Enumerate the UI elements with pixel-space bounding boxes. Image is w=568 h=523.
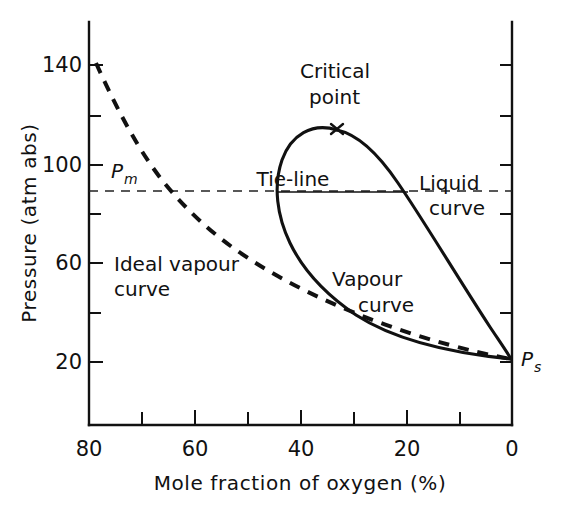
liquid-curve [337,130,511,359]
tie-line-label: Tie-line [256,167,330,191]
x-tick-label-40: 40 [288,437,315,461]
ideal-vapour-line2: curve [114,277,170,301]
ps-symbol: P [521,347,534,371]
y-tick-label-100: 100 [42,153,82,177]
x-tick-label-20: 20 [394,437,421,461]
y-tick-label-140: 140 [42,53,82,77]
pm-symbol: P [111,159,124,183]
ideal-vapour-line1: Ideal vapour [114,252,240,276]
pressure-composition-diagram: 140 100 60 20 80 60 40 20 0 Mole fractio… [0,0,568,523]
critical-point-label: Critical point [300,59,370,109]
vapour-curve [277,128,511,359]
liquid-curve-label: Liquid curve [419,171,485,220]
x-tick-label-80: 80 [76,437,103,461]
y-tick-label-20: 20 [55,350,82,374]
ideal-vapour-curve-label: Ideal vapour curve [114,252,240,301]
x-tick-label-60: 60 [182,437,209,461]
ps-subscript: s [534,359,541,375]
critical-point-line2: point [309,85,360,109]
y-axis-title: Pressure (atm abs) [17,123,41,322]
chart-svg: 140 100 60 20 80 60 40 20 0 Mole fractio… [0,0,568,523]
y-tick-label-60: 60 [55,251,82,275]
pm-subscript: m [124,171,138,187]
ps-label: P s [521,347,541,375]
liquid-curve-line2: curve [429,196,485,220]
pm-label: P m [111,159,138,187]
x-tick-label-0: 0 [505,437,518,461]
liquid-curve-line1: Liquid [419,171,479,195]
y-ticks-group [89,65,103,362]
vapour-curve-line2: curve [358,293,414,317]
critical-point-line1: Critical [300,59,370,83]
x-axis-title: Mole fraction of oxygen (%) [154,471,447,495]
x-ticks-group [142,410,460,425]
vapour-curve-line1: Vapour [332,267,403,291]
right-ticks-group [500,65,512,362]
